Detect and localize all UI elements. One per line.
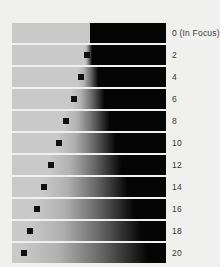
defocus-blur-chart: 0 (In Focus)2468101214161820 (0, 0, 220, 267)
chart-row (12, 45, 166, 65)
blur-gradient-bar (12, 155, 166, 175)
blur-circle-marker (21, 250, 27, 256)
blur-gradient-bar (12, 23, 166, 43)
blur-gradient-bar (12, 67, 166, 87)
row-label: 6 (172, 89, 177, 109)
blur-gradient-bar (12, 133, 166, 153)
blur-circle-marker (41, 184, 47, 190)
chart-row (12, 67, 166, 87)
blur-circle-marker (56, 140, 62, 146)
chart-row (12, 199, 166, 219)
chart-row (12, 177, 166, 197)
row-label: 20 (172, 243, 182, 263)
row-label: 8 (172, 111, 177, 131)
blur-circle-marker (27, 228, 33, 234)
blur-gradient-bar (12, 221, 166, 241)
row-label: 0 (In Focus) (172, 23, 220, 43)
blur-gradient-bar (12, 243, 166, 263)
row-label: 10 (172, 133, 182, 153)
chart-row (12, 155, 166, 175)
blur-circle-marker (84, 52, 90, 58)
chart-row (12, 89, 166, 109)
row-label: 18 (172, 221, 182, 241)
chart-row (12, 243, 166, 263)
chart-plot-area: 0 (In Focus)2468101214161820 (0, 0, 220, 267)
row-label: 16 (172, 199, 182, 219)
blur-circle-marker (63, 118, 69, 124)
blur-gradient-bar (12, 177, 166, 197)
row-label: 14 (172, 177, 182, 197)
row-label: 2 (172, 45, 177, 65)
chart-row (12, 111, 166, 131)
chart-row (12, 221, 166, 241)
blur-circle-marker (34, 206, 40, 212)
blur-circle-marker (78, 74, 84, 80)
row-label: 4 (172, 67, 177, 87)
blur-gradient-bar (12, 111, 166, 131)
blur-gradient-bar (12, 89, 166, 109)
blur-circle-marker (71, 96, 77, 102)
row-label: 12 (172, 155, 182, 175)
chart-row (12, 23, 166, 43)
chart-row (12, 133, 166, 153)
blur-circle-marker (48, 162, 54, 168)
